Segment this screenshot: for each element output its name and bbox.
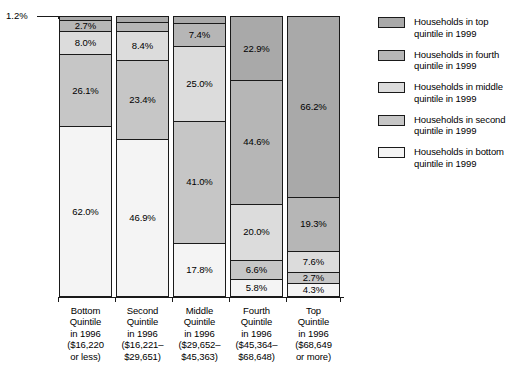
bar-segment[interactable]: 23.4% [117,61,168,140]
category-label-line: ($68,649 [276,339,352,350]
segment-value-label: 22.9% [243,44,269,54]
segment-value-label: 46.9% [129,213,155,223]
bar-segment[interactable]: 62.0% [60,127,111,296]
bar-segment[interactable]: 6.6% [231,261,282,280]
bar-segment[interactable]: 46.9% [117,140,168,296]
segment-value-label: 7.4% [189,30,210,40]
bar-segment[interactable]: 5.8% [231,280,282,296]
segment-value-label: 2.7% [75,21,96,31]
axis-tick [58,297,59,302]
bar-column-1[interactable]: 2.7%8.0%26.1%62.0% [59,16,112,297]
bar-segment[interactable]: 44.6% [231,81,282,205]
category-label-line: Quintile [276,316,352,327]
legend-label: Households in middlequintile in 1999 [414,81,503,104]
legend-swatch-icon [378,147,405,158]
legend-label: Households in secondquintile in 1999 [414,114,505,137]
axis-tick [229,297,230,302]
category-label-5: TopQuintilein 1996($68,649or more) [276,305,352,362]
segment-value-label: 62.0% [72,207,98,217]
axis-tick [286,297,287,302]
legend-swatch-icon [378,82,405,93]
legend-label-line: Households in middle [414,81,503,93]
legend-item-1[interactable]: Households in topquintile in 1999 [378,16,525,39]
bar-segment[interactable]: 8.0% [60,32,111,55]
legend-label-line: quintile in 1999 [414,93,503,105]
legend-item-3[interactable]: Households in middlequintile in 1999 [378,81,525,104]
segment-value-label: 17.8% [186,265,212,275]
legend-swatch-icon [378,50,405,61]
bar-segment[interactable]: 41.0% [174,122,225,244]
bar-segment[interactable] [174,17,225,24]
bar-segment[interactable]: 17.8% [174,244,225,296]
bar-segment[interactable]: 20.0% [231,205,282,261]
bar-column-5[interactable]: 66.2%19.3%7.6%2.7%4.3% [287,16,340,297]
segment-value-label: 5.8% [246,283,267,293]
legend-label-line: quintile in 1999 [414,60,499,72]
segment-value-label: 41.0% [186,177,212,187]
segment-value-label: 2.7% [303,273,324,283]
legend-label-line: Households in top [414,16,488,28]
legend-item-4[interactable]: Households in secondquintile in 1999 [378,114,525,137]
legend-swatch-icon [378,17,405,28]
category-label-line: or more) [276,351,352,362]
legend-item-2[interactable]: Households in fourthquintile in 1999 [378,49,525,72]
segment-value-label: 26.1% [72,86,98,96]
segment-value-label: 19.3% [300,219,326,229]
legend-label-line: Households in bottom [414,146,504,158]
bar-column-2[interactable]: 8.4%23.4%46.9% [116,16,169,297]
bar-segment[interactable]: 2.7% [288,273,339,284]
bar-segment[interactable] [117,23,168,32]
category-label-line: Top [276,305,352,316]
axis-tick [340,297,341,302]
bar-segment[interactable]: 25.0% [174,47,225,122]
legend-items-host: Households in topquintile in 1999Househo… [378,16,525,169]
callout-1-2-percent: 1.2% [6,10,28,21]
legend-swatch-icon [378,115,405,126]
legend-label-line: quintile in 1999 [414,158,504,170]
segment-value-label: 8.4% [132,41,153,51]
bar-column-4[interactable]: 22.9%44.6%20.0%6.6%5.8% [230,16,283,297]
bar-segment[interactable]: 8.4% [117,32,168,61]
bar-segment[interactable]: 4.3% [288,284,339,296]
callout-label: 1.2% [6,10,28,21]
bar-segment[interactable]: 19.3% [288,198,339,252]
segment-value-label: 25.0% [186,79,212,89]
bar-column-3[interactable]: 7.4%25.0%41.0%17.8% [173,16,226,297]
legend-item-5[interactable]: Households in bottomquintile in 1999 [378,146,525,169]
axis-tick [172,297,173,302]
segment-value-label: 23.4% [129,95,155,105]
segment-value-label: 8.0% [75,38,96,48]
bar-segment[interactable]: 22.9% [231,17,282,81]
segment-value-label: 6.6% [246,265,267,275]
bar-segment[interactable]: 7.4% [174,24,225,47]
category-label-line: in 1996 [276,328,352,339]
plot-area: 1.2% 2.7%8.0%26.1%62.0%8.4%23.4%46.9%7.4… [0,0,370,366]
bar-segment[interactable]: 66.2% [288,17,339,198]
legend: Households in topquintile in 1999Househo… [378,16,525,179]
legend-label-line: Households in second [414,114,505,126]
axis-tick [115,297,116,302]
legend-label-line: quintile in 1999 [414,125,505,137]
bar-segment[interactable]: 7.6% [288,252,339,274]
segment-value-label: 4.3% [303,285,324,295]
legend-label: Households in fourthquintile in 1999 [414,49,499,72]
segment-value-label: 7.6% [303,257,324,267]
bar-segment[interactable]: 2.7% [60,21,111,32]
legend-label: Households in topquintile in 1999 [414,16,488,39]
callout-leader-line [37,16,59,17]
bar-segment[interactable]: 26.1% [60,55,111,127]
legend-label-line: Households in fourth [414,49,499,61]
segment-value-label: 44.6% [243,137,269,147]
x-axis-line [58,297,344,298]
segment-value-label: 20.0% [243,227,269,237]
stacked-bar-chart: 1.2% 2.7%8.0%26.1%62.0%8.4%23.4%46.9%7.4… [0,0,525,366]
segment-value-label: 66.2% [300,102,326,112]
legend-label-line: quintile in 1999 [414,28,488,40]
legend-label: Households in bottomquintile in 1999 [414,146,504,169]
